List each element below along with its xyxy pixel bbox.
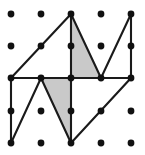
dot-c2-r2 xyxy=(68,75,75,82)
dot-c4-r4 xyxy=(128,140,135,147)
dot-c3-r3 xyxy=(98,108,105,115)
dot-c0-r3 xyxy=(8,108,15,115)
dot-c3-r0 xyxy=(98,11,105,18)
dot-c3-r2 xyxy=(98,75,105,82)
dot-c0-r4 xyxy=(8,140,15,147)
dot-c1-r0 xyxy=(38,11,45,18)
dot-c0-r2 xyxy=(8,75,15,82)
dot-c4-r1 xyxy=(128,43,135,50)
dot-c1-r2 xyxy=(38,75,45,82)
dot-c3-r4 xyxy=(98,140,105,147)
dot-c1-r3 xyxy=(38,108,45,115)
dot-c4-r3 xyxy=(128,108,135,115)
dot-c1-r4 xyxy=(38,140,45,147)
dot-c4-r2 xyxy=(128,75,135,82)
dot-c2-r1 xyxy=(68,43,75,50)
lattice-canvas xyxy=(0,0,145,155)
dot-c0-r0 xyxy=(8,11,15,18)
dot-c3-r1 xyxy=(98,43,105,50)
dot-c1-r1 xyxy=(38,43,45,50)
dot-c2-r3 xyxy=(68,108,75,115)
dot-c0-r1 xyxy=(8,43,15,50)
dot-c4-r0 xyxy=(128,11,135,18)
dot-c2-r0 xyxy=(68,11,75,18)
dot-c2-r4 xyxy=(68,140,75,147)
dot-lattice-figure xyxy=(0,0,145,155)
